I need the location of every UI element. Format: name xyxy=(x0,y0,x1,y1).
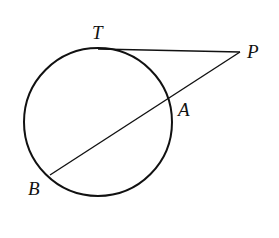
diagram-canvas: T P A B xyxy=(0,0,279,238)
tangent-secant-diagram: T P A B xyxy=(0,0,279,238)
secant-segment-pb xyxy=(50,52,240,175)
point-label-a: A xyxy=(176,99,190,120)
circle xyxy=(24,48,172,196)
point-label-b: B xyxy=(28,178,40,199)
point-label-t: T xyxy=(92,22,104,43)
point-label-p: P xyxy=(246,41,259,62)
